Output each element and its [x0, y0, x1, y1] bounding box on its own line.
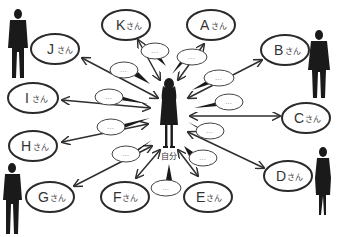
- svg-text:…: …: [105, 93, 113, 101]
- svg-text:…: …: [120, 66, 128, 74]
- svg-text:さん: さん: [126, 22, 142, 31]
- speech-bubble-A: …: [172, 49, 207, 74]
- svg-text:さん: さん: [206, 194, 222, 203]
- speech-bubble-self: …: [151, 164, 181, 196]
- svg-text:…: …: [199, 154, 207, 162]
- svg-text:…: …: [107, 123, 115, 131]
- speech-bubble-K: …: [141, 43, 169, 66]
- woman-silhouette-icon: [160, 78, 178, 148]
- node-C: C さん: [282, 103, 330, 133]
- svg-text:さん: さん: [33, 143, 49, 152]
- node-K: K さん: [102, 10, 150, 40]
- node-I: I さん: [8, 83, 58, 113]
- speech-bubble-B: …: [192, 70, 234, 90]
- node-E: E さん: [184, 182, 232, 212]
- self-figure: 自分: [160, 78, 178, 161]
- speech-bubble-D: …: [188, 122, 224, 139]
- node-G: G さん: [26, 182, 74, 212]
- svg-text:E: E: [196, 189, 205, 205]
- svg-text:B: B: [274, 42, 283, 58]
- node-B: B さん: [261, 35, 309, 65]
- man-silhouette-icon: [8, 9, 28, 78]
- woman-silhouette-icon: [315, 147, 331, 215]
- svg-text:…: …: [225, 98, 233, 106]
- svg-text:さん: さん: [57, 46, 73, 55]
- svg-text:さん: さん: [211, 22, 227, 31]
- speech-bubble-C: …: [194, 94, 243, 110]
- speech-bubble-G: …: [112, 140, 152, 162]
- svg-text:…: …: [206, 127, 214, 135]
- svg-text:H: H: [21, 138, 31, 154]
- svg-text:G: G: [38, 189, 49, 205]
- svg-text:F: F: [113, 189, 122, 205]
- svg-text:さん: さん: [305, 115, 321, 124]
- speech-bubble-H: …: [97, 118, 150, 135]
- node-J: J さん: [31, 34, 79, 64]
- man-silhouette-icon: [308, 30, 330, 98]
- node-H: H さん: [9, 131, 57, 161]
- svg-text:I: I: [25, 90, 29, 106]
- svg-text:…: …: [151, 47, 159, 55]
- svg-text:…: …: [122, 150, 130, 158]
- speech-bubble-E: …: [184, 146, 217, 166]
- node-F: F さん: [101, 182, 149, 212]
- svg-text:さん: さん: [122, 194, 138, 203]
- svg-text:さん: さん: [32, 95, 48, 104]
- svg-text:A: A: [200, 17, 210, 33]
- svg-text:…: …: [215, 74, 223, 82]
- node-A: A さん: [187, 10, 235, 40]
- self-label: 自分: [161, 151, 177, 161]
- node-D: D さん: [264, 161, 312, 191]
- man-silhouette-icon: [3, 163, 22, 234]
- svg-text:J: J: [47, 41, 54, 57]
- svg-text:さん: さん: [50, 194, 66, 203]
- svg-text:…: …: [162, 184, 170, 192]
- svg-text:さん: さん: [287, 173, 303, 182]
- relationship-diagram: … … … … … … …: [0, 0, 337, 237]
- svg-text:さん: さん: [285, 47, 301, 56]
- svg-text:K: K: [116, 17, 126, 33]
- svg-text:D: D: [276, 168, 286, 184]
- speech-bubble-I: …: [95, 89, 148, 105]
- speech-bubble-J: …: [110, 62, 150, 84]
- svg-text:…: …: [188, 53, 196, 61]
- svg-text:C: C: [294, 110, 304, 126]
